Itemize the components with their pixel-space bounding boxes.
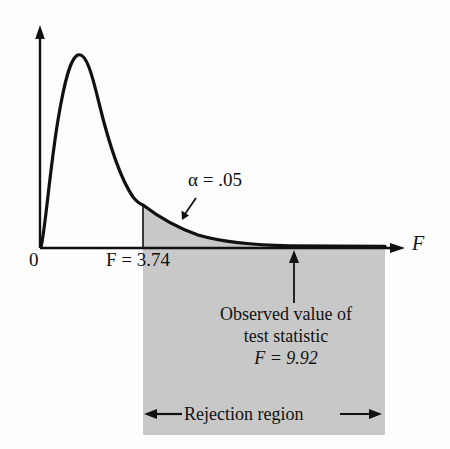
observed-value-annotation: Observed value of test statistic F = 9.9… <box>196 305 376 368</box>
rejection-region-label: Rejection region <box>184 405 303 424</box>
observed-value-line-1: Observed value of <box>196 305 376 324</box>
observed-value-line-3: F = 9.92 <box>196 349 376 368</box>
y-axis-arrowhead <box>35 25 45 39</box>
x-axis-label: F <box>412 233 424 254</box>
f-distribution-figure <box>0 0 450 449</box>
f-density-curve <box>41 55 385 247</box>
alpha-pointer-arrowhead <box>182 211 190 221</box>
origin-label: 0 <box>29 250 39 270</box>
alpha-label: α = .05 <box>188 170 242 190</box>
observed-value-line-2: test statistic <box>196 327 376 346</box>
critical-value-label: F = 3.74 <box>106 250 170 270</box>
figure-container: 0 F F = 3.74 α = .05 Observed value of t… <box>0 0 450 449</box>
x-axis-arrowhead <box>390 243 405 253</box>
alpha-pointer-line <box>185 198 196 214</box>
